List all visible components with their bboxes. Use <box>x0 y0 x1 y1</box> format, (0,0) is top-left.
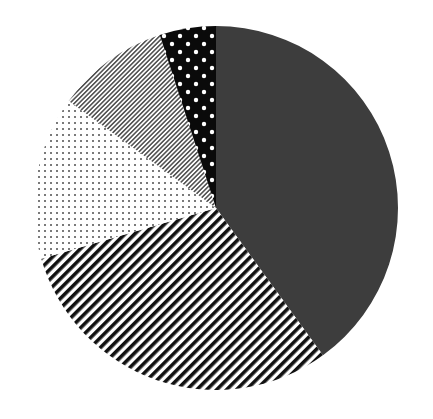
pie-chart-canvas <box>0 0 433 419</box>
pie-slices <box>34 26 398 390</box>
pie-chart: Slice 1 Slice 2 Slice 3 Slice 4 Slice 5 <box>0 0 433 419</box>
